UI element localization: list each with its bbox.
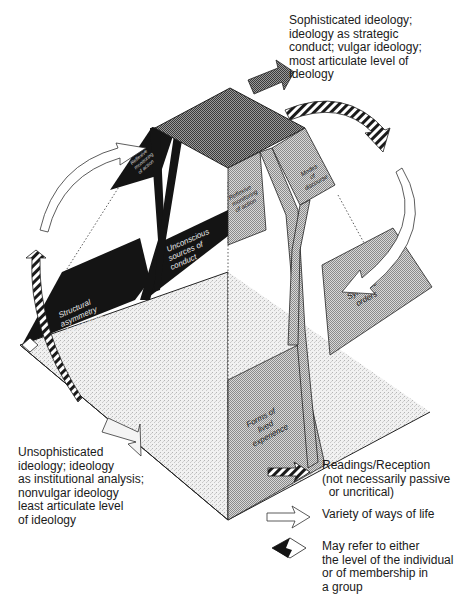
- caption-line: ideology as strategic: [289, 28, 422, 42]
- legend-item-readings-reception: Readings/Reception (not necessarily pass…: [322, 459, 450, 500]
- legend-line: or of membership in: [322, 567, 453, 581]
- caption-line: least articulate level: [18, 500, 144, 514]
- caption-line: Unsophisticated: [18, 446, 144, 460]
- legend-line: Variety of ways of life: [322, 508, 435, 522]
- up-arrow-icon: [248, 60, 294, 94]
- legend-line: the level of the individual: [322, 554, 453, 568]
- legend-split-diamond-icon: [272, 538, 306, 558]
- legend-line: a group: [322, 581, 453, 594]
- panel-symbolic-orders: [322, 228, 432, 355]
- legend-item-individual-or-group: May refer to either the level of the ind…: [322, 540, 453, 594]
- legend-line: (not necessarily passive: [322, 473, 450, 487]
- top-caption-sophisticated-ideology: Sophisticated ideology; ideology as stra…: [289, 14, 422, 82]
- caption-line: ideology; ideology: [18, 460, 144, 474]
- caption-line: ideology: [289, 68, 422, 82]
- caption-line: nonvulgar ideology: [18, 487, 144, 501]
- caption-line: Sophisticated ideology;: [289, 14, 422, 28]
- caption-line: of ideology: [18, 514, 144, 528]
- legend-hollow-arrow-icon: [267, 506, 310, 528]
- caption-line: conduct; vulgar ideology;: [289, 41, 422, 55]
- legend-line: Readings/Reception: [322, 459, 450, 473]
- hollow-curved-arrow-left-icon: [40, 143, 146, 232]
- caption-line: as institutional analysis;: [18, 473, 144, 487]
- legend-item-ways-of-life: Variety of ways of life: [322, 508, 435, 522]
- caption-line: most articulate level of: [289, 55, 422, 69]
- legend-line: May refer to either: [322, 540, 453, 554]
- legend-line: or uncritical): [322, 486, 450, 500]
- bottom-caption-unsophisticated-ideology: Unsophisticated ideology; ideology as in…: [18, 446, 144, 527]
